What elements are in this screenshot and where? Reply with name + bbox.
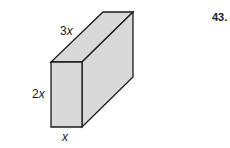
problem-number: 43. (212, 12, 227, 23)
prism-front-face (51, 62, 82, 127)
width-label: x (62, 131, 68, 143)
height-label: 2x (32, 88, 45, 100)
depth-variable: x (67, 24, 73, 38)
width-variable: x (62, 130, 68, 144)
page: 3x 2x x 43. (0, 0, 230, 148)
height-variable: x (39, 87, 45, 101)
depth-label: 3x (60, 25, 73, 37)
rectangular-prism-figure (0, 0, 230, 148)
depth-coefficient: 3 (60, 24, 67, 38)
height-coefficient: 2 (32, 87, 39, 101)
